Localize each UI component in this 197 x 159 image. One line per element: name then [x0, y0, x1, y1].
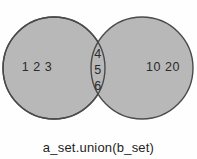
region-label-left-only: 1 2 3: [6, 61, 68, 74]
intersection-element-3: 6: [78, 78, 118, 94]
region-label-intersection: 4 5 6: [78, 46, 118, 94]
intersection-element-2: 5: [78, 62, 118, 78]
intersection-element-1: 4: [78, 46, 118, 62]
figure-caption: a_set.union(b_set): [0, 140, 197, 155]
region-label-right-only: 10 20: [134, 61, 192, 74]
venn-diagram-figure: 1 2 3 4 5 6 10 20 a_set.union(b_set): [0, 0, 197, 159]
